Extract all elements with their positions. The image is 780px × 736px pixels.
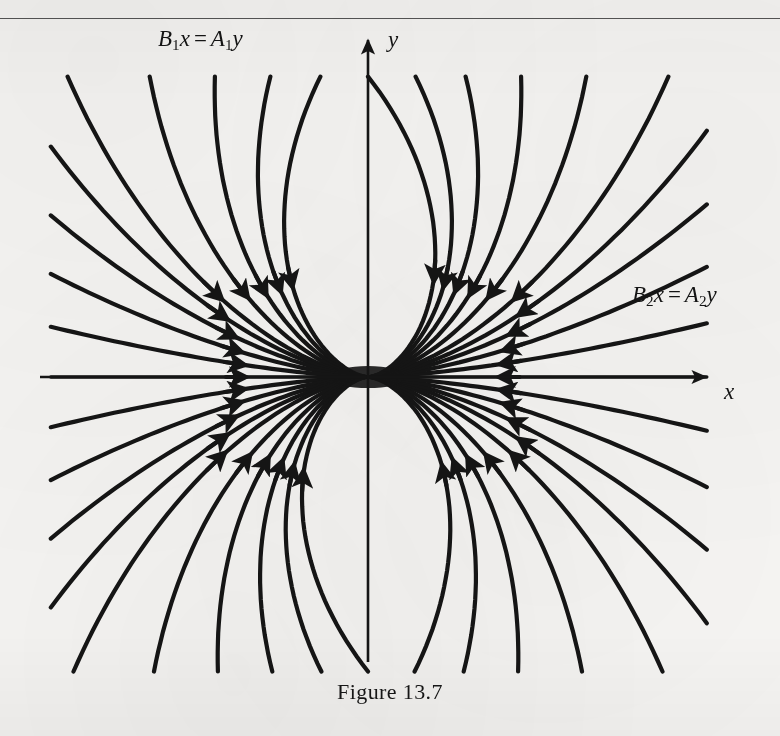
trajectory: [371, 377, 518, 672]
figure-page: B1x=A1y B2x=A2y y x Figure 13.7: [0, 0, 780, 736]
asym1-sub1: 1: [172, 36, 180, 53]
flow-arrowhead: [222, 346, 236, 350]
flow-arrowhead: [490, 460, 500, 473]
flow-arrowhead: [204, 282, 218, 295]
flow-arrowhead: [524, 442, 539, 453]
asym2-sub2: 2: [699, 292, 707, 309]
asym1-x: x: [180, 26, 190, 51]
trajectory: [371, 77, 521, 377]
asym2-B: B: [632, 282, 646, 307]
flow-arrowhead: [275, 467, 280, 481]
flow-arrowhead: [208, 306, 222, 316]
asym1-B: B: [158, 26, 172, 51]
trajectory: [215, 77, 365, 377]
flow-arrowhead: [207, 457, 221, 470]
y-axis-label: y: [388, 28, 398, 51]
header-rule: [0, 18, 780, 19]
flow-arrowhead: [256, 276, 264, 290]
flow-arrowhead: [225, 390, 239, 392]
flow-arrowhead: [470, 463, 478, 476]
asym2-A: A: [685, 282, 699, 307]
flow-arrowhead: [236, 460, 246, 473]
flow-arrowhead: [273, 272, 278, 286]
flow-arrowhead: [290, 471, 293, 485]
figure-caption: Figure 13.7: [0, 679, 780, 705]
trajectory-group: [51, 77, 707, 672]
asym2-x: x: [654, 282, 664, 307]
flow-arrowhead: [208, 438, 222, 448]
flow-arrowhead: [515, 422, 530, 430]
flow-arrowhead: [234, 279, 244, 292]
flow-arrowhead: [258, 463, 266, 476]
flow-arrowhead: [524, 301, 539, 312]
asym1-eq: =: [190, 26, 211, 51]
flow-arrowhead: [222, 404, 236, 408]
flow-arrowhead: [515, 324, 530, 332]
asym2-y: y: [707, 282, 717, 307]
flow-arrowhead: [506, 361, 521, 363]
asym2-eq: =: [664, 282, 685, 307]
asym1-A: A: [211, 26, 225, 51]
flow-arrowhead: [509, 344, 524, 349]
phase-portrait-diagram: [0, 0, 780, 736]
trajectory: [218, 377, 365, 672]
flow-arrowhead: [225, 362, 239, 364]
flow-arrowhead: [302, 477, 303, 491]
flow-arrowhead: [456, 467, 461, 481]
flow-arrowhead: [506, 391, 521, 393]
flow-arrowhead: [434, 260, 435, 275]
flow-arrowhead: [509, 405, 524, 410]
asym2-sub1: 2: [646, 292, 654, 309]
flow-arrowhead: [516, 457, 530, 470]
asymptote-2-label: B2x=A2y: [632, 283, 717, 308]
flow-arrowhead: [217, 328, 231, 335]
x-axis-label: x: [724, 380, 734, 403]
flow-arrowhead: [443, 471, 446, 485]
asym1-sub2: 1: [225, 36, 233, 53]
asym1-y: y: [233, 26, 243, 51]
flow-arrowhead: [217, 419, 231, 426]
flow-arrowhead: [492, 279, 502, 292]
flow-arrowhead: [518, 282, 532, 295]
asymptote-1-label: B1x=A1y: [158, 27, 243, 52]
flow-arrowhead: [473, 276, 481, 290]
flow-arrowhead: [457, 272, 462, 286]
